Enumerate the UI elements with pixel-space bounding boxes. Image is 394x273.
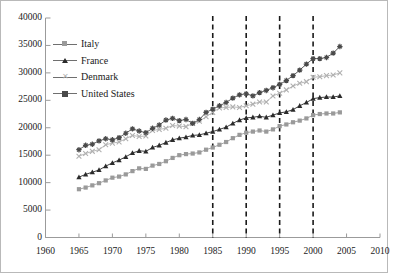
- legend-item-france[interactable]: France: [53, 54, 135, 68]
- y-tick-label: 40000: [1, 13, 42, 23]
- y-tick-label: 15000: [1, 150, 42, 160]
- triangle-marker-icon: [53, 55, 77, 67]
- square-marker-icon: [53, 38, 77, 50]
- series-france: [76, 93, 342, 179]
- y-tick-marks: [46, 18, 51, 238]
- series-italy: [77, 110, 342, 191]
- legend-label-france: France: [81, 56, 108, 66]
- star-marker-icon: [53, 88, 77, 100]
- x-tick-marks: [46, 234, 381, 238]
- y-tick-label: 5000: [1, 205, 42, 215]
- y-tick-label: 35000: [1, 40, 42, 50]
- legend-label-united-states: United States: [81, 89, 135, 99]
- cross-marker-icon: ✕: [53, 71, 77, 83]
- legend-item-denmark[interactable]: ✕ Denmark: [53, 70, 135, 84]
- chart-legend: Italy France ✕ Denmark United States: [53, 37, 135, 103]
- y-tick-label: 30000: [1, 68, 42, 78]
- legend-item-united-states[interactable]: United States: [53, 87, 135, 101]
- legend-label-italy: Italy: [81, 39, 99, 49]
- y-tick-label: 25000: [1, 95, 42, 105]
- legend-label-denmark: Denmark: [81, 72, 118, 82]
- x-tick-label: 2010: [360, 247, 394, 257]
- y-tick-label: 20000: [1, 123, 42, 133]
- y-tick-label: 10000: [1, 178, 42, 188]
- y-tick-label: 0: [1, 233, 42, 243]
- legend-item-italy[interactable]: Italy: [53, 37, 135, 51]
